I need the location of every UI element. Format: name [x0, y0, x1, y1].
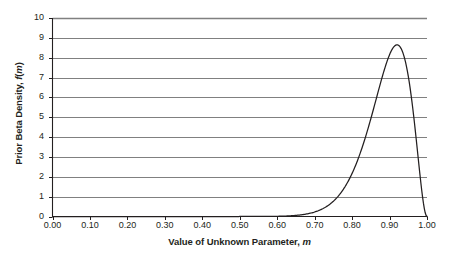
- plot-area: [0, 0, 457, 259]
- density-curve: [53, 45, 428, 217]
- gridline-group: [53, 19, 428, 198]
- chart-figure: Prior Beta Density, f(m) Value of Unknow…: [0, 0, 457, 259]
